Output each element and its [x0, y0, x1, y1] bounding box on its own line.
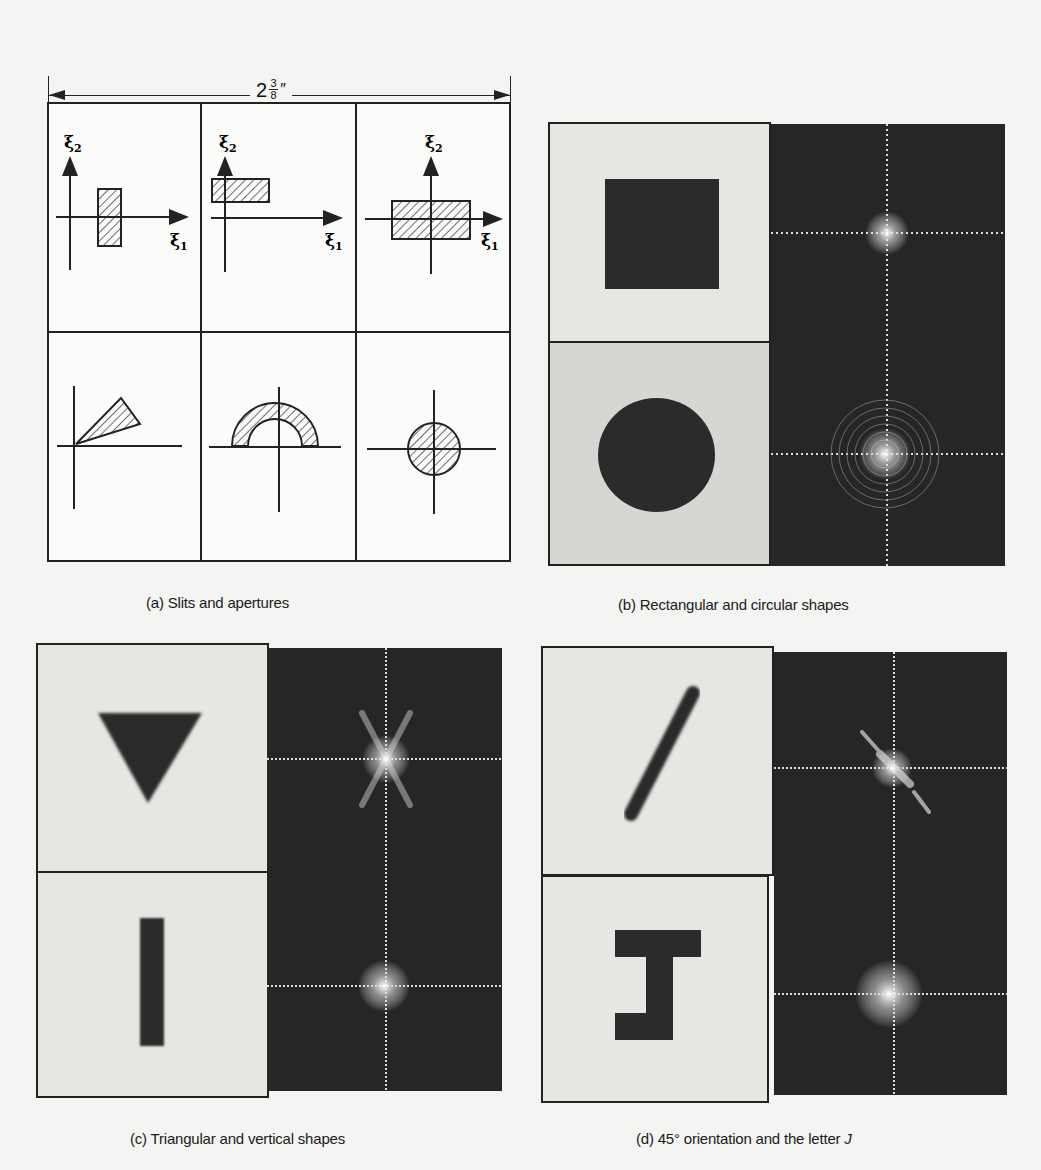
- panel-a-grid: ξ2 ξ1 ξ2 ξ1 ξ2 ξ1: [47, 102, 511, 562]
- dimension-fraction: 3 8: [269, 78, 278, 101]
- object-square-image: [548, 122, 771, 343]
- letter-j-shape: [543, 877, 767, 1101]
- svg-text:ξ2: ξ2: [219, 132, 237, 155]
- spectrum-b: [771, 124, 1005, 566]
- dimension-numerator: 3: [271, 78, 277, 89]
- dimension-right-tick: [510, 76, 511, 102]
- caption-c: (c) Triangular and vertical shapes: [130, 1130, 345, 1147]
- panel-a-drawings: ξ2 ξ1 ξ2 ξ1 ξ2 ξ1: [49, 104, 509, 560]
- cell-centered-disk: [367, 390, 496, 514]
- cell-half-annulus: [209, 387, 341, 512]
- svg-text:ξ1: ξ1: [481, 230, 499, 253]
- object-letter-j-image: [541, 875, 769, 1103]
- dimension-denominator: 8: [271, 90, 277, 101]
- spectrum-d: [774, 652, 1007, 1095]
- svg-text:ξ1: ξ1: [325, 230, 343, 253]
- triangle-shape: [38, 645, 267, 871]
- arrow-left-icon: [49, 89, 65, 101]
- svg-text:ξ1: ξ1: [170, 230, 188, 253]
- cell-centered-rectangle: ξ2 ξ1: [365, 132, 499, 274]
- diagonal-bar-shape: [543, 648, 772, 874]
- caption-a: (a) Slits and apertures: [146, 594, 289, 611]
- cell-wedge: [57, 386, 182, 509]
- caption-d-text: (d) 45° orientation and the letter: [636, 1130, 844, 1147]
- cell-horizontal-slit: ξ2 ξ1: [211, 132, 343, 272]
- circle-shape: [598, 398, 715, 512]
- dimension-label: 2 3 8 ″: [250, 78, 292, 101]
- cell-vertical-slit: ξ2 ξ1: [56, 132, 188, 270]
- object-vertical-bar-image: [36, 871, 269, 1098]
- spectrum-c: [267, 648, 502, 1091]
- dimension-whole: 2: [256, 80, 267, 100]
- square-shape: [605, 179, 719, 289]
- object-triangle-image: [36, 643, 269, 873]
- dimension-unit: ″: [280, 82, 286, 98]
- svg-text:ξ2: ξ2: [425, 132, 443, 155]
- object-circle-image: [548, 341, 771, 566]
- object-diagonal-bar-image: [541, 646, 774, 876]
- caption-d-letter: J: [844, 1130, 851, 1147]
- caption-d: (d) 45° orientation and the letter J: [636, 1130, 852, 1147]
- vertical-bar-shape: [140, 918, 164, 1046]
- caption-b: (b) Rectangular and circular shapes: [618, 596, 849, 613]
- svg-text:ξ2: ξ2: [64, 132, 82, 155]
- arrow-right-icon: [494, 89, 510, 101]
